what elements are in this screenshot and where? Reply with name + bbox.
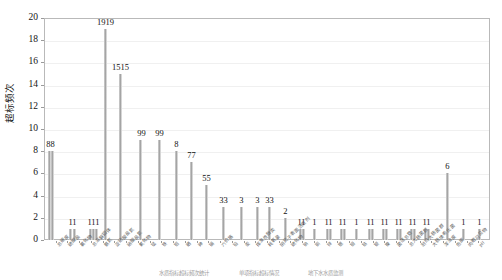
bar-value-label: 99 xyxy=(153,129,166,138)
bar xyxy=(313,229,316,240)
bar xyxy=(119,74,122,241)
x-axis-category-label: 镉 xyxy=(208,240,215,247)
bar-value-label: 1919 xyxy=(94,18,116,27)
y-tick-label: 10 xyxy=(12,124,38,134)
bar xyxy=(256,207,259,240)
caption-part-2: 单项指标超标情况 xyxy=(239,270,279,276)
bar-value-label: 11 xyxy=(378,218,391,227)
bar-value-label: 33 xyxy=(217,196,230,205)
x-axis-category-label: 钠 xyxy=(302,240,309,247)
bar-value-label: 1515 xyxy=(109,63,131,72)
x-axis-category-label: 铝 xyxy=(173,240,180,247)
bar-value-label: 11 xyxy=(322,218,335,227)
bar-value-label: 11 xyxy=(336,218,349,227)
bar xyxy=(205,185,208,241)
bar xyxy=(51,151,54,240)
y-tick-label: 14 xyxy=(12,80,38,90)
x-axis-category-label: 砷 xyxy=(197,240,204,247)
bar xyxy=(343,229,346,240)
bar xyxy=(355,229,358,240)
y-tick-label: 16 xyxy=(12,57,38,67)
x-axis-category-label: 钼 xyxy=(349,240,356,247)
caption-part-1: 水质指标超标频次统计 xyxy=(159,270,209,276)
x-axis-category-label: 汞 xyxy=(244,240,251,247)
x-axis-category-label: 锌 xyxy=(326,240,333,247)
bar-value-label: 1 xyxy=(352,218,361,227)
bar xyxy=(104,29,107,240)
x-axis-category-label: 铜 xyxy=(314,240,321,247)
bar xyxy=(175,151,178,240)
x-axis-category-label: 铅 xyxy=(232,240,239,247)
caption-part-3: 地下水水质监测 xyxy=(308,270,343,276)
bar-value-label: 6 xyxy=(443,162,452,171)
y-tick-label: 8 xyxy=(12,146,38,156)
bar-value-label: 8 xyxy=(172,140,181,149)
x-axis-category-label: pH xyxy=(478,240,486,248)
bar xyxy=(158,140,161,240)
bar-value-label: 3 xyxy=(253,196,262,205)
bar xyxy=(240,207,243,240)
bar xyxy=(139,140,142,240)
bar-value-label: 55 xyxy=(200,174,213,183)
bar-value-label: 33 xyxy=(263,196,276,205)
bar-value-label: 3 xyxy=(237,196,246,205)
bar xyxy=(385,229,388,240)
y-tick-label: 2 xyxy=(12,213,38,223)
bar-value-label: 111 xyxy=(85,218,103,227)
bar-value-label: 11 xyxy=(420,218,433,227)
x-axis-category-label: 硒 xyxy=(185,240,192,247)
y-tick-label: 20 xyxy=(12,13,38,23)
y-tick-label: 6 xyxy=(12,168,38,178)
x-axis-category-label: 镍 xyxy=(384,240,391,247)
y-tick-label: 4 xyxy=(12,191,38,201)
x-axis-category-label: 锰 xyxy=(150,240,157,247)
bar-value-label: 1 xyxy=(310,218,319,227)
bar-value-label: 99 xyxy=(135,129,148,138)
bar-value-label: 11 xyxy=(364,218,377,227)
bar xyxy=(371,229,374,240)
bar-value-label: 11 xyxy=(66,218,79,227)
x-axis-category-label: 铁 xyxy=(161,240,168,247)
x-axis-category-label: 钡 xyxy=(373,240,380,247)
bar-value-label: 2 xyxy=(281,207,290,216)
y-tick-label: 12 xyxy=(12,102,38,112)
bar-value-label: 1 xyxy=(459,218,468,227)
bar-value-label: 77 xyxy=(185,151,198,160)
y-tick-label: 18 xyxy=(12,35,38,45)
bar-value-label: 1 xyxy=(475,218,484,227)
bar-value-label: 88 xyxy=(44,140,57,149)
bar-value-label: 11 xyxy=(406,218,419,227)
x-axis-category-label: 钴 xyxy=(361,240,368,247)
bar xyxy=(222,207,225,240)
bar xyxy=(190,162,193,240)
bar-chart: 超标频次 02468101214161820 88111111919151599… xyxy=(0,0,502,280)
bars-layer: 8811111191915159999877553333332111111111… xyxy=(44,18,490,240)
y-tick-label: 0 xyxy=(12,235,38,245)
bar xyxy=(329,229,332,240)
bar-value-label: 11 xyxy=(392,218,405,227)
chart-caption: 水质指标超标频次统计 单项指标超标情况 地下水水质监测 xyxy=(0,270,502,276)
x-axis-category-label: 银 xyxy=(337,240,344,247)
